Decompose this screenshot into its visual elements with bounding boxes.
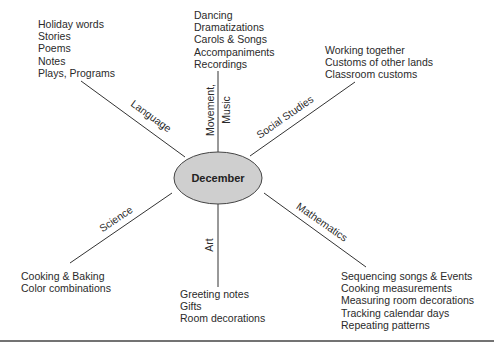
spoke-language [81,81,185,157]
list-item: Measuring room decorations [341,294,474,306]
language-items: Holiday words Stories Poems Notes Plays,… [38,18,115,79]
spoke-label-science: Science [97,203,135,234]
mathematics-items: Sequencing songs & Events Cooking measur… [341,270,474,331]
list-item: Customs of other lands [325,56,433,68]
list-item: Gifts [180,300,265,312]
spoke-label-art: Art [203,238,215,252]
list-item: Cooking measurements [341,282,474,294]
list-item: Dancing [194,9,275,21]
art-items: Greeting notes Gifts Room decorations [180,288,265,325]
list-item: Plays, Programs [38,67,115,79]
social-studies-items: Working together Customs of other lands … [325,44,433,81]
list-item: Room decorations [180,312,265,324]
list-item: Accompaniments [194,46,275,58]
center-label: December [191,172,245,184]
spoke-label-music: Music [220,96,232,123]
list-item: Notes [38,55,115,67]
spoke-label-movement: Movement, [204,84,216,136]
list-item: Classroom customs [325,68,433,80]
list-item: Dramatizations [194,21,275,33]
list-item: Working together [325,44,433,56]
list-item: Stories [38,30,115,42]
list-item: Repeating patterns [341,319,474,331]
list-item: Sequencing songs & Events [341,270,474,282]
list-item: Carols & Songs [194,33,275,45]
spoke-label-language: Language [129,97,174,134]
list-item: Cooking & Baking [21,270,111,282]
list-item: Color combinations [21,282,111,294]
spoke-mathematics [264,193,366,267]
spoke-social-studies [250,82,355,156]
list-item: Poems [38,42,115,54]
list-item: Tracking calendar days [341,307,474,319]
list-item: Recordings [194,58,275,70]
spoke-science [70,193,172,263]
science-items: Cooking & Baking Color combinations [21,270,111,294]
list-item: Holiday words [38,18,115,30]
music-items: Dancing Dramatizations Carols & Songs Ac… [194,9,275,70]
list-item: Greeting notes [180,288,265,300]
